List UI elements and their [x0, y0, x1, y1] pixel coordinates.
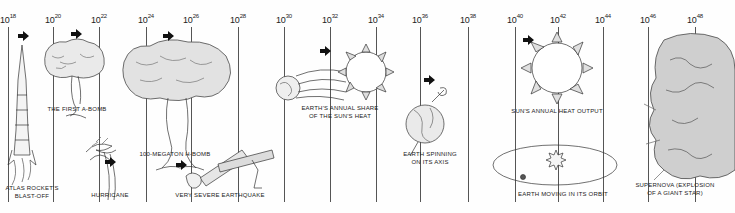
label-line: OF A GIANT STAR) [630, 189, 720, 197]
label-supernova: SUPERNOVA (EXPLOSION OF A GIANT STAR) [630, 181, 720, 197]
arrow-icon [163, 31, 174, 41]
label-line: ON ITS AXIS [400, 158, 460, 166]
arrow-icon [105, 157, 116, 167]
label-line: 100-MEGATON H-BOMB [130, 150, 220, 158]
label-line: SUPERNOVA (EXPLOSION [630, 181, 720, 189]
label-sunout: SUN'S ANNUAL HEAT OUTPUT [505, 107, 609, 115]
label-line: EARTH'S ANNUAL SHARE [296, 104, 384, 112]
label-line: BLAST-OFF [2, 192, 62, 200]
label-spin: EARTH SPINNING ON ITS AXIS [400, 150, 460, 166]
arrow-icon [424, 75, 435, 85]
label-hbomb: 100-MEGATON H-BOMB [130, 150, 220, 158]
arrow-icon [71, 29, 82, 39]
label-line: THE FIRST A-BOMB [42, 105, 112, 113]
label-atlas: ATLAS ROCKET'S BLAST-OFF [2, 184, 62, 200]
label-line: EARTH SPINNING [400, 150, 460, 158]
arrow-icon [18, 31, 29, 41]
label-sunshare: EARTH'S ANNUAL SHARE OF THE SUN'S HEAT [296, 104, 384, 120]
arrow-icon [176, 160, 187, 170]
label-quake: VERY SEVERE EARTHQUAKE [172, 191, 268, 199]
energy-scale-diagram: 1018102010221024102610281030103210341036… [0, 0, 735, 213]
label-line: ATLAS ROCKET'S [2, 184, 62, 192]
arrow-icon [523, 35, 534, 45]
arrow-icon [320, 46, 331, 56]
label-line: VERY SEVERE EARTHQUAKE [172, 191, 268, 199]
label-hurricane: HURRICANE [88, 191, 132, 199]
label-orbit: EARTH MOVING IN ITS ORBIT [510, 190, 616, 198]
label-line: SUN'S ANNUAL HEAT OUTPUT [505, 107, 609, 115]
label-abomb: THE FIRST A-BOMB [42, 105, 112, 113]
label-line: EARTH MOVING IN ITS ORBIT [510, 190, 616, 198]
label-line: HURRICANE [88, 191, 132, 199]
label-line: OF THE SUN'S HEAT [296, 112, 384, 120]
